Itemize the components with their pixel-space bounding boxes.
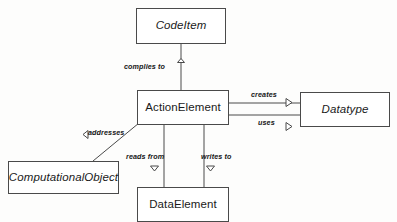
edge-label-writes-to: writes to [201,152,231,161]
class-node-actionelement[interactable]: ActionElement [137,90,229,125]
class-node-label: CodeItem [156,20,207,32]
triangle-down-icon-reads-from [151,166,159,171]
triangle-up-icon-complies-to [178,59,185,63]
triangle-right-icon-uses [286,123,292,131]
class-node-label: ComputationalObject [9,172,118,184]
class-node-computationalobject[interactable]: ComputationalObject [8,161,119,194]
uml-class-diagram: CodeItem ActionElement Datatype Computat… [0,0,397,222]
edge-label-addresses: addresses [88,128,124,137]
edge-label-reads-from: reads from [126,152,164,161]
class-node-label: DataElement [149,199,217,211]
triangle-down-icon-writes-to [207,166,215,171]
triangle-right-icon-creates [286,99,292,107]
class-node-codeitem[interactable]: CodeItem [136,8,226,44]
edge-label-complies-to: complies to [124,62,165,71]
class-node-dataelement[interactable]: DataElement [137,187,229,222]
class-node-datatype[interactable]: Datatype [300,92,390,127]
class-node-label: ActionElement [145,102,220,114]
class-node-label: Datatype [322,104,369,116]
edge-label-uses: uses [258,118,275,127]
edge-label-creates: creates [251,90,277,99]
